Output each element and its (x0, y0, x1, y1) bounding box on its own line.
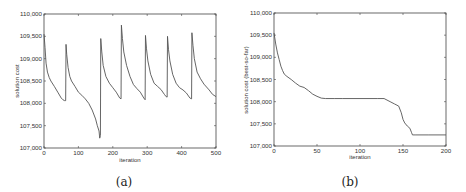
chart-a-xlabel: iteration (119, 157, 140, 163)
y-tick-label: 107,500 (20, 122, 43, 129)
figure: 107,000107,500108,000108,500109,000109,5… (0, 0, 466, 192)
chart-a-frame (44, 14, 216, 148)
x-tick-label: 400 (176, 149, 187, 156)
chart-b-x-ticks: 050100150200 (272, 13, 451, 154)
x-tick-label: 0 (42, 149, 46, 156)
x-tick-label: 0 (272, 147, 276, 154)
y-tick-label: 108,500 (250, 76, 273, 83)
chart-a: 107,000107,500108,000108,500109,000109,5… (14, 10, 222, 189)
x-tick-label: 200 (108, 149, 119, 156)
y-tick-label: 110,000 (20, 10, 42, 17)
y-tick-label: 107,500 (250, 120, 273, 127)
x-tick-label: 300 (142, 149, 153, 156)
y-tick-label: 109,500 (20, 32, 43, 39)
y-tick-label: 110,000 (250, 9, 272, 16)
chart-b-y-ticks: 107,000107,500108,000108,500109,000109,5… (250, 9, 446, 149)
x-tick-label: 200 (441, 147, 452, 154)
y-tick-label: 108,000 (20, 99, 43, 106)
y-tick-label: 107,000 (20, 144, 43, 151)
chart-a-x-ticks: 0100200300400500 (42, 14, 221, 156)
chart-b-caption: (b) (341, 175, 358, 189)
chart-b: 107,000107,500108,000108,500109,000109,5… (243, 9, 452, 189)
chart-b-frame (274, 13, 446, 146)
y-tick-label: 109,000 (250, 53, 273, 60)
x-tick-label: 500 (211, 149, 222, 156)
chart-b-ylabel: solution cost (best-so-far) (243, 46, 249, 114)
y-tick-label: 107,000 (250, 142, 273, 149)
chart-a-caption: (a) (116, 175, 133, 189)
chart-b-line-series (274, 33, 446, 135)
x-tick-label: 100 (355, 147, 366, 154)
x-tick-label: 50 (314, 147, 321, 154)
y-tick-label: 108,000 (250, 98, 273, 105)
y-tick-label: 108,500 (20, 77, 43, 84)
x-tick-label: 100 (73, 149, 84, 156)
chart-a-y-ticks: 107,000107,500108,000108,500109,000109,5… (20, 10, 216, 151)
y-tick-label: 109,000 (20, 55, 43, 62)
y-tick-label: 109,500 (250, 31, 273, 38)
x-tick-label: 150 (398, 147, 409, 154)
chart-b-xlabel: iteration (349, 154, 370, 160)
chart-a-line-series (44, 25, 216, 138)
chart-a-ylabel: solution cost (14, 64, 20, 98)
